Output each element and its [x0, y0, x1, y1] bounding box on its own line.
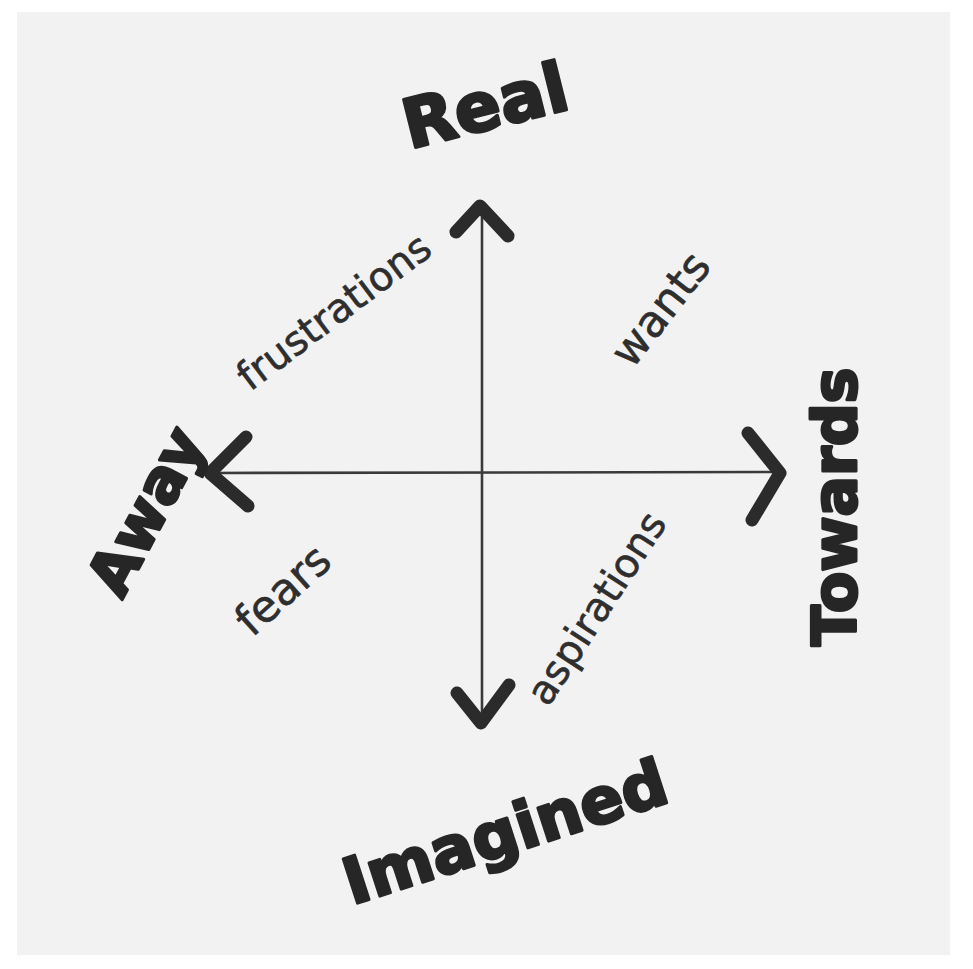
- axis-label-away: Away: [73, 415, 219, 606]
- vertical-axis: [456, 206, 509, 723]
- arrow-right-icon: [748, 433, 780, 520]
- axis-label-real: Real: [394, 47, 576, 164]
- quadrant-diagram: Real Away Towards Imagined frustrations …: [0, 0, 973, 969]
- quadrant-label-fears: fears: [225, 534, 341, 646]
- quadrant-label-wants: wants: [600, 242, 721, 377]
- axis-label-towards: Towards: [800, 368, 870, 646]
- quadrant-label-frustrations: frustrations: [228, 224, 440, 400]
- horizontal-axis: [210, 433, 780, 520]
- quadrant-label-aspirations: aspirations: [517, 503, 676, 713]
- horizontal-axis-line: [210, 472, 780, 473]
- axis-label-imagined: Imagined: [334, 745, 677, 919]
